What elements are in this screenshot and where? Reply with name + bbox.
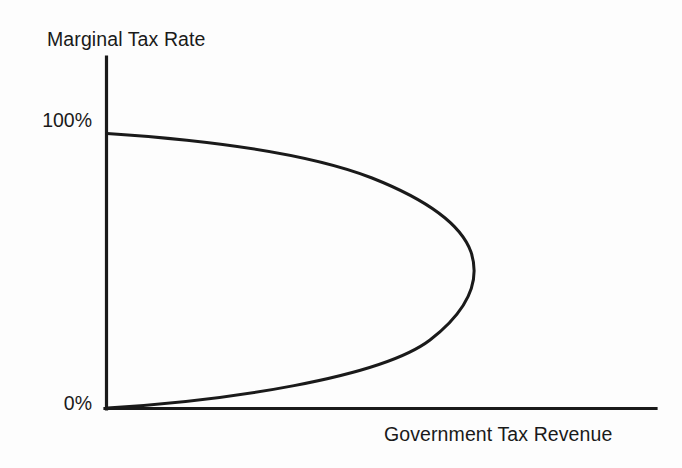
laffer-curve-figure: Marginal Tax Rate Government Tax Revenue… [0,0,682,468]
y-tick-label-100-percent: 100% [0,111,92,131]
x-axis-title: Government Tax Revenue [384,425,612,445]
laffer-curve-path [107,134,474,409]
figure-canvas [0,0,682,468]
y-axis-title: Marginal Tax Rate [47,30,206,50]
y-tick-label-0-percent: 0% [0,394,92,414]
